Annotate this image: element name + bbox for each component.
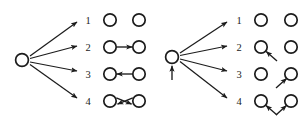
right-row-3: 3 [236, 68, 297, 88]
right-row-2-label: 2 [236, 42, 241, 53]
left-row-4: 4 [85, 95, 145, 107]
left-fan-edges [30, 22, 77, 98]
right-row-2-node-a [255, 41, 267, 53]
left-row-1-node-a [104, 14, 116, 26]
left-row-2-label: 2 [85, 42, 90, 53]
right-row-4-incoming-arrow-left [266, 106, 277, 115]
right-branching-diagram: 1 2 3 4 [166, 14, 298, 115]
right-row-1-label: 1 [236, 15, 241, 26]
left-row-2-node-b [133, 41, 145, 53]
right-row-4-node-a [255, 95, 267, 107]
left-row-4-node-b [133, 95, 145, 107]
graph-diagram-canvas: 1 2 3 4 [0, 0, 307, 120]
left-row-1-label: 1 [85, 15, 90, 26]
left-row-3-node-a [104, 68, 116, 80]
left-row-2: 2 [85, 41, 145, 53]
right-row-4-label: 4 [236, 96, 242, 107]
right-row-4: 4 [236, 95, 297, 115]
left-row-3-label: 3 [85, 69, 90, 80]
left-row-4-label: 4 [85, 96, 91, 107]
right-branch-edge-4 [180, 62, 227, 99]
left-row-3-node-b [133, 68, 145, 80]
left-row-4-node-a [104, 95, 116, 107]
right-row-3-label: 3 [236, 69, 241, 80]
right-fan-edges [180, 22, 227, 98]
right-row-3-node-b [285, 68, 297, 80]
left-row-3: 3 [85, 68, 145, 80]
left-root-node [16, 54, 29, 67]
left-row-2-node-a [104, 41, 116, 53]
right-branch-edge-1 [180, 22, 227, 53]
figure-container: 1 2 3 4 [0, 0, 307, 120]
right-row-1-node-a [255, 14, 267, 26]
right-root-node [166, 51, 179, 64]
right-row-4-incoming-arrow-right [276, 106, 286, 115]
right-row-4-node-b [285, 95, 297, 107]
left-row-1-node-b [133, 14, 145, 26]
right-row-1: 1 [236, 14, 297, 26]
right-row-3-node-a [255, 68, 267, 80]
left-branch-edge-2 [30, 46, 77, 59]
right-row-1-node-b [285, 14, 297, 26]
left-branch-edge-1 [30, 22, 77, 56]
right-branch-edge-3 [180, 59, 227, 71]
right-row-2: 2 [236, 41, 297, 61]
left-row-1: 1 [85, 14, 145, 26]
right-row-2-node-b [285, 41, 297, 53]
right-row-3-incoming-arrow [276, 78, 287, 88]
right-branch-edge-2 [180, 46, 227, 56]
right-row-2-incoming-arrow [266, 51, 277, 61]
left-branching-diagram: 1 2 3 4 [16, 14, 146, 107]
